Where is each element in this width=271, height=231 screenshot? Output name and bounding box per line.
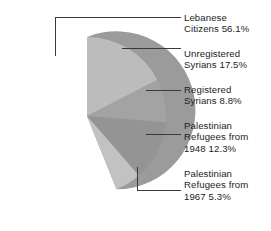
pie-label-line: Refugees from (184, 179, 248, 190)
pie-label-line: Syrians 17.5% (184, 59, 247, 70)
pie-label-line: Registered (184, 84, 242, 95)
pie-label-line: Syrians 8.8% (184, 95, 242, 106)
pie-chart-figure: Lebanese Citizens 56.1% Unregistered Syr… (0, 0, 271, 231)
pie-label-line: Lebanese (184, 12, 249, 23)
pie-label-palestinian-1948: Palestinian Refugees from 1948 12.3% (184, 120, 248, 154)
pie-label-line: Palestinian (184, 120, 248, 131)
pie-label-line: 1948 12.3% (184, 143, 248, 154)
pie-label-line: Citizens 56.1% (184, 23, 249, 34)
pie-label-palestinian-1967: Palestinian Refugees from 1967 5.3% (184, 168, 248, 202)
pie-slices (87, 31, 195, 189)
pie-label-line: 1967 5.3% (184, 191, 248, 202)
pie-label-unregistered-syrians: Unregistered Syrians 17.5% (184, 48, 247, 71)
pie-label-line: Unregistered (184, 48, 247, 59)
pie-label-lebanese-citizens: Lebanese Citizens 56.1% (184, 12, 249, 35)
pie-label-registered-syrians: Registered Syrians 8.8% (184, 84, 242, 107)
pie-label-line: Palestinian (184, 168, 248, 179)
pie-label-line: Refugees from (184, 131, 248, 142)
